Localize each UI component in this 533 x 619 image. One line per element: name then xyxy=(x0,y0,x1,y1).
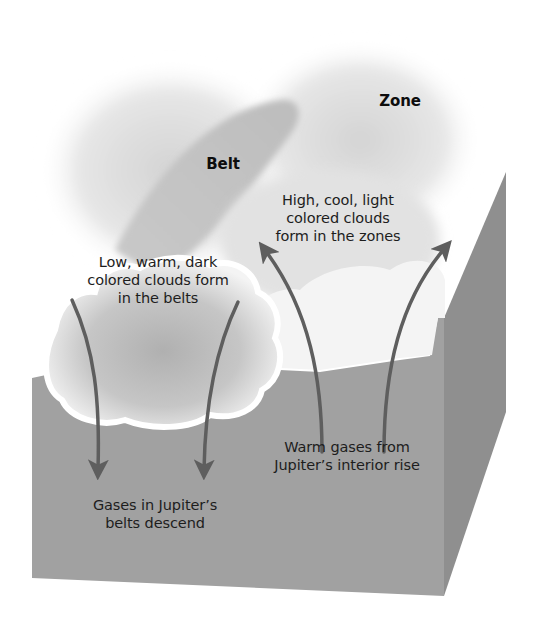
zone-gases-annotation: Warm gases from Jupiter’s interior rise xyxy=(262,438,432,474)
belt-gases-annotation: Gases in Jupiter’s belts descend xyxy=(75,496,235,532)
zone-label: Zone xyxy=(365,92,435,110)
box-side-face xyxy=(444,172,506,596)
belt-label: Belt xyxy=(193,155,253,173)
belt-clouds-annotation: Low, warm, dark colored clouds form in t… xyxy=(78,253,238,307)
zone-clouds-annotation: High, cool, light colored clouds form in… xyxy=(258,191,418,245)
